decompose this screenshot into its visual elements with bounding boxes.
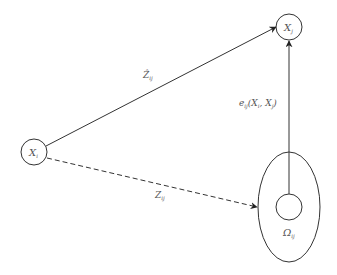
node-xj: Xj [276, 14, 302, 40]
node-omega-label: Ω [282, 227, 291, 238]
edge-xi-xj-solid-arrow [46, 27, 276, 146]
node-xi: Xi [21, 139, 47, 165]
edge-label-zhat-ij: Ẑij [142, 69, 153, 82]
node-omega: Ωij [276, 194, 302, 240]
edge-label-e-ij: eij(Xi, Xj) [239, 98, 277, 110]
edge-xi-omega-dashed-arrow [47, 158, 257, 207]
svg-text:Ωij: Ωij [282, 227, 295, 240]
edge-label-z-ij: Zij [154, 190, 165, 202]
diagram-canvas: Xi Xj Ωij Ẑij Zij eij(Xi, Xj) [0, 0, 337, 275]
